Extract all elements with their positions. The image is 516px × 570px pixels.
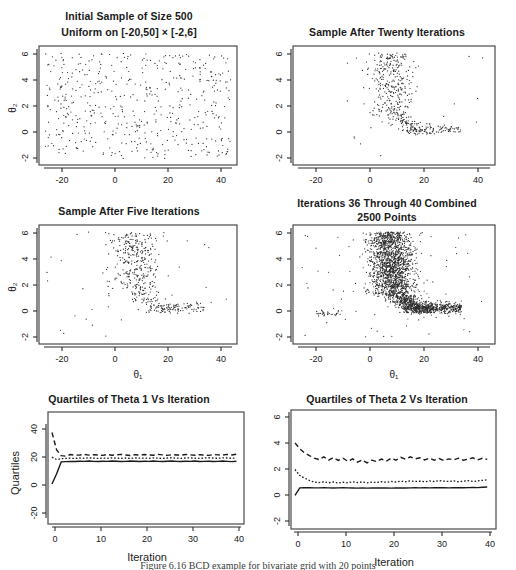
series-median <box>295 470 487 484</box>
xtick-40: 40 <box>216 175 226 185</box>
ytick-0: 0 <box>20 129 30 134</box>
ytick-4: 4 <box>274 256 284 261</box>
xtick-neg20: -20 <box>55 354 68 364</box>
ytick-6: 6 <box>274 230 284 235</box>
ytick-0: 0 <box>274 129 284 134</box>
plot-iterations-36-40: 6 4 2 0 -2 - <box>258 195 516 385</box>
ytick-neg2: -2 <box>272 517 282 525</box>
y-axis-line <box>287 49 291 163</box>
panel-initial-sample: Initial Sample of Size 500 Uniform on [-… <box>0 0 258 195</box>
y-axis-ticklabels: 6 4 2 0 -2 <box>274 230 284 341</box>
xtick-10: 10 <box>341 539 351 549</box>
x-axis-line <box>44 168 232 172</box>
y-axis-ticklabels: 6 4 2 0 -2 <box>20 51 30 162</box>
xtick-0: 0 <box>367 354 372 364</box>
xtick-40: 40 <box>216 354 226 364</box>
y-axis-ticklabels: 6 4 2 0 -2 <box>272 414 282 525</box>
panel-after-twenty: Sample After Twenty Iterations 6 4 2 0 -… <box>258 0 516 195</box>
plot-frame <box>39 46 237 165</box>
y-axis-line <box>33 228 37 342</box>
xtick-0: 0 <box>112 354 117 364</box>
xtick-0: 0 <box>112 175 117 185</box>
xtick-20: 20 <box>419 175 429 185</box>
xtick-neg20: -20 <box>309 175 322 185</box>
plot-after-five: 6 4 2 0 -2 θ₂ <box>0 195 258 385</box>
ytick-6: 6 <box>272 414 282 419</box>
x-axis-label: θ₁ <box>390 369 400 380</box>
panel-quartiles-theta1: Quartiles of Theta 1 Vs Iteration 40 20 … <box>0 385 258 570</box>
series-lower-quartile <box>52 461 236 484</box>
ytick-neg2: -2 <box>274 333 284 341</box>
series-lower-quartile <box>295 487 487 495</box>
ytick-0: 0 <box>272 492 282 497</box>
ytick-4: 4 <box>272 440 282 445</box>
ytick-2: 2 <box>20 103 30 108</box>
ytick-2: 2 <box>272 466 282 471</box>
plot-frame <box>293 46 495 165</box>
scatter-points <box>347 52 483 156</box>
ytick-4: 4 <box>20 256 30 261</box>
plot-quartiles-theta1: 40 20 0 -20 Quartiles <box>0 385 258 570</box>
plot-frame <box>291 410 496 529</box>
xtick-10: 10 <box>96 534 106 544</box>
scatter-points <box>46 231 226 336</box>
ytick-4: 4 <box>20 77 30 82</box>
plot-frame <box>48 412 244 524</box>
xtick-neg20: -20 <box>309 354 322 364</box>
ytick-neg2: -2 <box>274 154 284 162</box>
y-axis-line <box>33 49 37 163</box>
y-axis-ticklabels: 40 20 0 -20 <box>29 424 39 520</box>
panel-title-line2: Uniform on [-20,50] × [-2,6] <box>0 26 258 39</box>
x-axis-line <box>44 347 232 351</box>
y-axis-line <box>42 424 46 518</box>
ytick-neg20: -20 <box>29 506 39 519</box>
xtick-0: 0 <box>295 539 300 549</box>
y-axis-line <box>285 412 289 526</box>
xtick-30: 30 <box>437 539 447 549</box>
x-axis-line <box>294 532 492 536</box>
ytick-4: 4 <box>274 77 284 82</box>
panel-quartiles-theta2: Quartiles of Theta 2 Vs Iteration 6 4 2 … <box>258 385 516 570</box>
y-axis-ticklabels: 6 4 2 0 -2 <box>274 51 284 162</box>
x-axis-ticklabels: 0 10 20 30 40 <box>295 539 495 549</box>
ytick-40: 40 <box>29 424 39 434</box>
ytick-0: 0 <box>274 308 284 313</box>
ytick-2: 2 <box>274 103 284 108</box>
y-axis-label: Quartiles <box>9 450 21 495</box>
xtick-40: 40 <box>473 354 483 364</box>
panel-title-line1: Sample After Twenty Iterations <box>258 26 516 39</box>
ytick-2: 2 <box>274 282 284 287</box>
figure-container: Initial Sample of Size 500 Uniform on [-… <box>0 0 516 570</box>
ytick-6: 6 <box>20 51 30 56</box>
x-axis-ticklabels: -20 0 20 40 <box>309 175 483 185</box>
xtick-neg20: -20 <box>55 175 68 185</box>
ytick-2: 2 <box>20 282 30 287</box>
xtick-20: 20 <box>419 354 429 364</box>
x-axis-ticklabels: 0 10 20 30 40 <box>52 534 244 544</box>
ytick-neg2: -2 <box>20 333 30 341</box>
ytick-neg2: -2 <box>20 154 30 162</box>
y-axis-line <box>287 228 291 342</box>
ytick-6: 6 <box>20 230 30 235</box>
ytick-0: 0 <box>29 482 39 487</box>
x-axis-label: θ₁ <box>134 369 144 380</box>
series-upper-quartile <box>52 433 236 457</box>
panel-title-line2: 2500 Points <box>258 211 516 224</box>
y-axis-label: θ₂ <box>7 103 18 113</box>
panel-iterations-36-40: Iterations 36 Through 40 Combined 2500 P… <box>258 195 516 385</box>
xtick-40: 40 <box>473 175 483 185</box>
x-axis-ticklabels: -20 0 20 40 <box>55 175 226 185</box>
panel-title-line1: Iterations 36 Through 40 Combined <box>258 197 516 210</box>
panel-title-line1: Sample After Five Iterations <box>0 205 258 218</box>
ytick-20: 20 <box>29 452 39 462</box>
scatter-points <box>45 53 231 159</box>
y-axis-ticklabels: 6 4 2 0 -2 <box>20 230 30 341</box>
y-axis-label: θ₂ <box>7 282 18 292</box>
xtick-20: 20 <box>142 534 152 544</box>
panel-title-line1: Quartiles of Theta 2 Vs Iteration <box>258 393 516 406</box>
x-axis-line <box>52 527 241 531</box>
plot-frame <box>39 225 237 344</box>
series-upper-quartile <box>295 443 487 463</box>
xtick-40: 40 <box>234 534 244 544</box>
xtick-40: 40 <box>485 539 495 549</box>
